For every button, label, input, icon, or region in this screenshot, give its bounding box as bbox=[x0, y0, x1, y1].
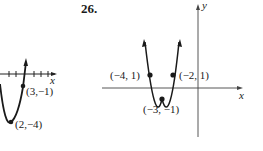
right-point-left bbox=[147, 72, 152, 77]
right-vertex-point bbox=[159, 96, 164, 101]
right-point-right bbox=[170, 72, 175, 77]
right-point-right-label: (−2, 1) bbox=[179, 70, 209, 81]
left-parabola-arrow-icon bbox=[24, 58, 29, 66]
right-vertex-label: (−3, −1) bbox=[143, 104, 179, 115]
left-point-b bbox=[9, 120, 14, 125]
right-point-left-label: (−4, 1) bbox=[110, 70, 140, 81]
left-point-a-label: (3,−1) bbox=[26, 86, 53, 97]
right-x-axis-label: x bbox=[239, 90, 244, 101]
left-point-a bbox=[21, 84, 26, 89]
problem-number: 26. bbox=[81, 1, 97, 17]
right-y-axis-label: y bbox=[202, 0, 207, 11]
right-y-axis-arrow-icon bbox=[196, 4, 200, 10]
left-point-b-label: (2,−4) bbox=[15, 119, 42, 130]
left-parabola bbox=[0, 62, 26, 123]
